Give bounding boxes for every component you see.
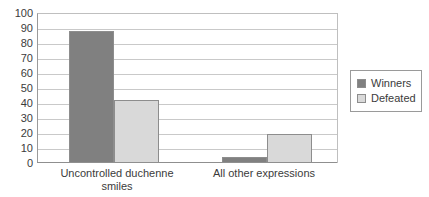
y-tick-label: 60 xyxy=(0,68,33,79)
bar-defeated-all-other-expressions xyxy=(267,134,312,163)
y-axis-labels: 100 90 80 70 60 50 40 30 20 10 0 xyxy=(0,13,33,163)
bar-group-all-other-expressions xyxy=(222,14,312,163)
legend-swatch-icon xyxy=(357,79,366,88)
legend-item-defeated: Defeated xyxy=(357,91,415,106)
y-tick-label: 30 xyxy=(0,113,33,124)
x-category-line: smiles xyxy=(37,180,197,193)
y-tick-label: 50 xyxy=(0,83,33,94)
y-tick-label: 100 xyxy=(0,8,33,19)
x-axis-line xyxy=(37,162,337,163)
y-tick-label: 70 xyxy=(0,53,33,64)
bar-group-uncontrolled-duchenne-smiles xyxy=(69,14,159,163)
y-tick-label: 0 xyxy=(0,158,33,169)
x-category-line: Uncontrolled duchenne xyxy=(37,167,197,180)
x-category-label-all-other-expressions: All other expressions xyxy=(189,167,339,180)
legend-label: Winners xyxy=(371,78,411,89)
bar-chart: 100 90 80 70 60 50 40 30 20 10 0 xyxy=(0,0,429,197)
y-tick-label: 80 xyxy=(0,38,33,49)
bar-defeated-uncontrolled-duchenne-smiles xyxy=(114,100,159,163)
x-category-label-uncontrolled-duchenne-smiles: Uncontrolled duchenne smiles xyxy=(37,167,197,193)
y-tick-label: 10 xyxy=(0,143,33,154)
x-axis-labels: Uncontrolled duchenne smiles All other e… xyxy=(37,167,338,197)
y-tick-label: 20 xyxy=(0,128,33,139)
legend-label: Defeated xyxy=(371,93,416,104)
legend: Winners Defeated xyxy=(350,70,422,112)
legend-swatch-icon xyxy=(357,94,366,103)
plot-area xyxy=(37,13,338,163)
x-category-line: All other expressions xyxy=(189,167,339,180)
y-tick-label: 40 xyxy=(0,98,33,109)
bar-winners-uncontrolled-duchenne-smiles xyxy=(69,31,114,163)
legend-item-winners: Winners xyxy=(357,76,415,91)
y-tick-label: 90 xyxy=(0,23,33,34)
